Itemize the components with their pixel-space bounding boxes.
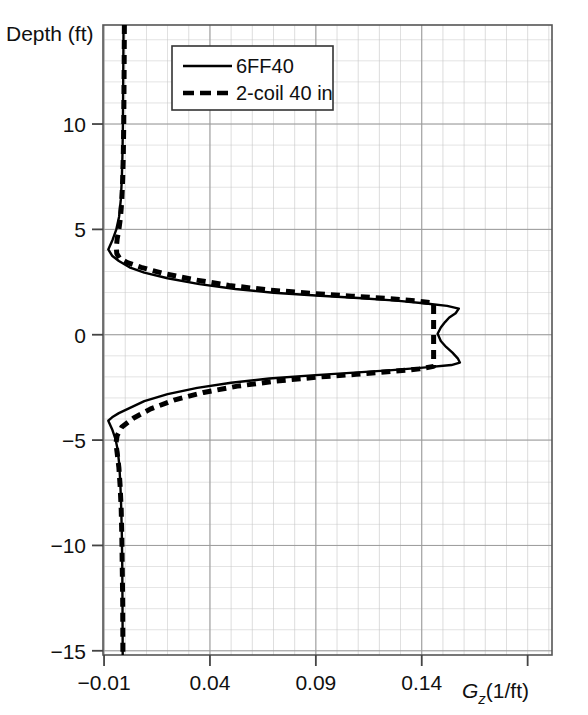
- y-axis-title: Depth (ft): [6, 22, 94, 45]
- chart-figure: −0.010.040.090.14 1050−5−10−15 Depth (ft…: [0, 0, 588, 715]
- y-tick-label: 0: [74, 324, 86, 347]
- x-tick-label: −0.01: [77, 671, 130, 694]
- y-tick-label: −15: [50, 640, 86, 663]
- x-tick-label: 0.09: [295, 671, 336, 694]
- x-tick-label: 0.04: [190, 671, 231, 694]
- y-tick-label: −10: [50, 534, 86, 557]
- y-tick-label: 10: [63, 113, 86, 136]
- legend-label-0: 6FF40: [236, 55, 294, 77]
- x-axis-title-units: (1/ft): [486, 679, 529, 702]
- y-tick-label: 5: [74, 218, 86, 241]
- x-tick-label: 0.14: [401, 671, 442, 694]
- gz-depth-line-chart: −0.010.040.090.14 1050−5−10−15 Depth (ft…: [0, 0, 588, 715]
- x-axis-title-symbol: G: [462, 679, 478, 702]
- legend-label-1: 2-coil 40 in: [236, 82, 333, 104]
- chart-legend: 6FF40 2-coil 40 in: [172, 46, 333, 110]
- y-tick-label: −5: [62, 429, 86, 452]
